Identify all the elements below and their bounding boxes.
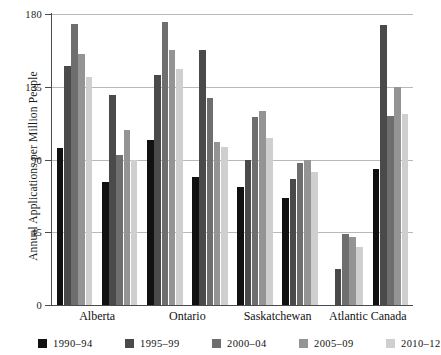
- bar: [116, 155, 123, 305]
- bar: [221, 147, 228, 305]
- bar: [109, 95, 116, 305]
- plot-area: [52, 14, 413, 305]
- bar: [356, 247, 363, 305]
- y-axis-tick-label: 45: [31, 227, 42, 238]
- legend-item: 1995–99: [125, 335, 180, 351]
- x-axis-tick-label: Saskatchewan: [244, 309, 312, 324]
- bar-group: [368, 14, 413, 305]
- y-axis-tick-label: 135: [25, 81, 42, 92]
- bar: [297, 163, 304, 305]
- bar: [214, 142, 221, 305]
- bar: [124, 130, 131, 305]
- bar-group: [142, 14, 187, 305]
- y-axis-title: Annual Applications per Million People: [27, 36, 39, 296]
- bar: [57, 148, 64, 305]
- bar: [199, 50, 206, 305]
- bar: [349, 237, 356, 305]
- bar: [154, 75, 161, 305]
- legend-item: 1990–94: [38, 335, 93, 351]
- x-axis-tick-label: Alberta: [79, 309, 115, 324]
- bar: [282, 198, 289, 305]
- bar: [169, 50, 176, 305]
- x-axis-line: [51, 305, 413, 306]
- bar: [252, 117, 259, 305]
- legend-item-label: 2010–12: [401, 338, 441, 349]
- bar: [162, 22, 169, 305]
- bar-group: [97, 14, 142, 305]
- bar: [311, 172, 318, 305]
- legend-swatch-icon: [212, 339, 221, 348]
- bar: [102, 182, 109, 305]
- bar: [237, 187, 244, 305]
- legend-swatch-icon: [38, 339, 47, 348]
- bar: [64, 66, 71, 305]
- bar: [380, 25, 387, 305]
- bar-group: [233, 14, 278, 305]
- y-axis-tick-label: 180: [25, 9, 42, 20]
- bar: [387, 116, 394, 305]
- bar: [290, 179, 297, 305]
- legend-item-label: 1990–94: [53, 338, 93, 349]
- chart-legend: 1990–941995–992000–042005–092010–12: [38, 335, 408, 353]
- bar: [131, 160, 138, 306]
- bar-group: [52, 14, 97, 305]
- y-axis-tick-label: 0: [36, 300, 42, 311]
- bar: [402, 114, 409, 305]
- legend-swatch-icon: [299, 339, 308, 348]
- bar: [207, 98, 214, 305]
- legend-swatch-icon: [125, 339, 134, 348]
- bar: [335, 269, 342, 305]
- legend-item-label: 2000–04: [227, 338, 267, 349]
- bar: [71, 24, 78, 305]
- bar: [266, 138, 273, 305]
- legend-swatch-icon: [386, 339, 395, 348]
- legend-item: 2000–04: [212, 335, 267, 351]
- legend-item: 2005–09: [299, 335, 354, 351]
- bar: [342, 234, 349, 305]
- bar: [304, 160, 311, 306]
- y-axis-tick-label: 90: [31, 154, 42, 165]
- bar: [176, 69, 183, 305]
- x-axis-tick-label: Ontario: [169, 309, 206, 324]
- bar-group: [278, 14, 323, 305]
- bar: [147, 140, 154, 305]
- bar: [394, 87, 401, 305]
- x-axis-tick-label: Atlantic Canada: [329, 309, 407, 324]
- bar: [78, 54, 85, 305]
- bar: [245, 160, 252, 306]
- legend-item-label: 2005–09: [314, 338, 354, 349]
- bar-group: [187, 14, 232, 305]
- bar: [259, 111, 266, 305]
- bar: [86, 77, 93, 305]
- bar: [373, 169, 380, 305]
- bar-group: [323, 14, 368, 305]
- legend-item: 2010–12: [386, 335, 441, 351]
- bar: [192, 177, 199, 305]
- legend-item-label: 1995–99: [140, 338, 180, 349]
